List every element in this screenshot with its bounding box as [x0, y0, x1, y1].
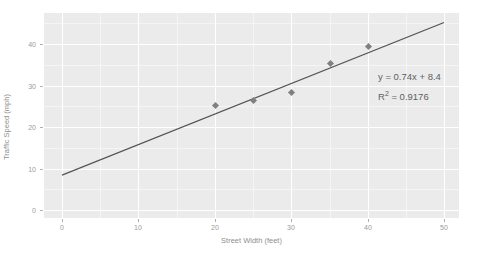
y-tick-label-0: 0 — [20, 207, 36, 214]
y-tick-label-40: 40 — [20, 41, 36, 48]
r-squared-value: = 0.9176 — [389, 91, 429, 102]
y-tick-label-20: 20 — [20, 124, 36, 131]
x-tick-label-10: 10 — [134, 224, 142, 231]
y-tick-mark — [40, 127, 43, 128]
y-tick-label-10: 10 — [20, 166, 36, 173]
x-axis-title: Street Width (feet) — [44, 236, 459, 245]
x-tick-mark — [444, 219, 445, 222]
y-tick-mark — [40, 44, 43, 45]
plot-panel: y = 0.74x + 8.4 R2 = 0.9176 — [44, 13, 459, 218]
data-layer — [44, 13, 459, 218]
x-tick-mark — [215, 219, 216, 222]
x-tick-mark — [62, 219, 63, 222]
regression-annotation: y = 0.74x + 8.4 R2 = 0.9176 — [378, 68, 441, 105]
x-tick-label-50: 50 — [440, 224, 448, 231]
y-tick-label-30: 30 — [20, 83, 36, 90]
equation-text: y = 0.74x + 8.4 — [378, 68, 441, 85]
y-tick-mark — [40, 86, 43, 87]
x-tick-mark — [368, 219, 369, 222]
r-squared-text: R2 = 0.9176 — [378, 85, 441, 105]
y-axis-title: Traffic Speed (mph) — [2, 94, 11, 160]
x-tick-label-20: 20 — [211, 224, 219, 231]
x-tick-label-0: 0 — [60, 224, 64, 231]
x-tick-label-40: 40 — [364, 224, 372, 231]
y-tick-mark — [40, 210, 43, 211]
y-tick-mark — [40, 169, 43, 170]
scatter-chart: y = 0.74x + 8.4 R2 = 0.9176 0 10 20 30 4… — [0, 0, 492, 254]
r-squared-prefix: R — [378, 91, 385, 102]
x-tick-mark — [291, 219, 292, 222]
x-tick-label-30: 30 — [287, 224, 295, 231]
x-tick-mark — [138, 219, 139, 222]
